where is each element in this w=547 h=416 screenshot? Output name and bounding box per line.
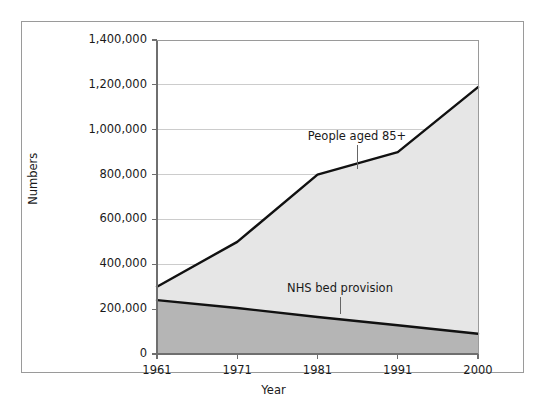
series-label-nhs-bed-provision: NHS bed provision: [287, 283, 393, 295]
x-axis-tick-label: 1971: [223, 365, 252, 377]
x-axis-title: Year: [0, 385, 547, 397]
y-axis-title: Numbers: [28, 149, 40, 209]
x-axis-tick-label: 1981: [303, 365, 332, 377]
y-axis-tick-label: 600,000: [79, 214, 147, 226]
y-axis-tick-label: 1,200,000: [79, 79, 147, 91]
x-axis-tick-label: 1991: [383, 365, 412, 377]
y-axis-tick-label: 400,000: [79, 259, 147, 271]
y-axis-tick-label: 1,400,000: [79, 34, 147, 46]
y-axis-tick-label: 0: [79, 348, 147, 360]
x-axis-tick-label: 2000: [463, 365, 492, 377]
y-axis-tick-label: 800,000: [79, 169, 147, 181]
y-axis-tick-label: 1,000,000: [79, 124, 147, 136]
y-axis-tick-label: 200,000: [79, 303, 147, 315]
series-label-people-aged-85-plus: People aged 85+: [308, 131, 407, 143]
x-axis-tick-label: 1961: [142, 365, 171, 377]
